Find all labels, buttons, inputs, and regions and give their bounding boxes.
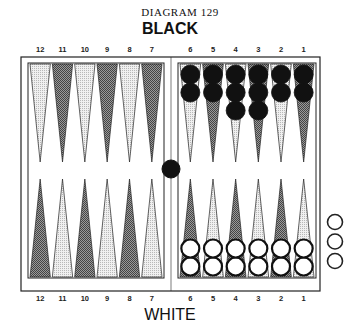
black-checker[interactable] bbox=[294, 83, 313, 102]
point-bottom-10[interactable] bbox=[75, 179, 95, 277]
top-point-number: 6 bbox=[188, 45, 192, 54]
top-point-number: 5 bbox=[211, 45, 215, 54]
white-checker[interactable] bbox=[272, 240, 290, 258]
point-bottom-7[interactable] bbox=[142, 179, 162, 277]
black-checker[interactable] bbox=[272, 83, 291, 102]
white-checker[interactable] bbox=[181, 240, 199, 258]
point-bottom-8[interactable] bbox=[119, 179, 139, 277]
black-checker[interactable] bbox=[226, 65, 245, 84]
bottom-point-number: 2 bbox=[279, 294, 283, 303]
borne-off-white-checker bbox=[328, 254, 343, 269]
white-checker[interactable] bbox=[227, 240, 245, 258]
black-checker[interactable] bbox=[204, 65, 223, 84]
bottom-point-number: 12 bbox=[36, 294, 44, 303]
top-point-number: 11 bbox=[59, 45, 67, 54]
bottom-point-number: 7 bbox=[150, 294, 154, 303]
bottom-point-number: 11 bbox=[59, 294, 67, 303]
point-top-8[interactable] bbox=[119, 64, 139, 162]
black-checker[interactable] bbox=[204, 83, 223, 102]
backgammon-board: 121110987654321121110987654321 bbox=[0, 0, 360, 332]
white-checker[interactable] bbox=[249, 258, 267, 276]
point-bottom-11[interactable] bbox=[52, 179, 72, 277]
black-checker[interactable] bbox=[249, 101, 268, 120]
bar-black-checker[interactable] bbox=[162, 160, 180, 178]
top-point-number: 4 bbox=[234, 45, 239, 54]
top-point-number: 1 bbox=[302, 45, 306, 54]
white-checker[interactable] bbox=[204, 258, 222, 276]
top-point-number: 8 bbox=[127, 45, 131, 54]
top-point-number: 12 bbox=[36, 45, 44, 54]
black-checker[interactable] bbox=[181, 83, 200, 102]
white-checker[interactable] bbox=[295, 258, 313, 276]
bottom-point-number: 1 bbox=[302, 294, 306, 303]
black-checker[interactable] bbox=[272, 65, 291, 84]
bottom-point-number: 8 bbox=[127, 294, 131, 303]
white-checker[interactable] bbox=[181, 258, 199, 276]
top-point-number: 10 bbox=[81, 45, 89, 54]
black-checker[interactable] bbox=[249, 65, 268, 84]
white-checker[interactable] bbox=[272, 258, 290, 276]
bottom-point-number: 4 bbox=[234, 294, 239, 303]
point-bottom-9[interactable] bbox=[97, 179, 117, 277]
black-checker[interactable] bbox=[249, 83, 268, 102]
point-top-12[interactable] bbox=[30, 64, 50, 162]
point-top-10[interactable] bbox=[75, 64, 95, 162]
borne-off-white-checker bbox=[328, 234, 343, 249]
bottom-point-number: 10 bbox=[81, 294, 89, 303]
black-checker[interactable] bbox=[226, 101, 245, 120]
point-top-11[interactable] bbox=[52, 64, 72, 162]
top-point-number: 3 bbox=[256, 45, 260, 54]
black-checker[interactable] bbox=[294, 65, 313, 84]
white-checker[interactable] bbox=[295, 240, 313, 258]
point-top-9[interactable] bbox=[97, 64, 117, 162]
top-point-number: 2 bbox=[279, 45, 283, 54]
bottom-point-number: 9 bbox=[105, 294, 109, 303]
point-top-7[interactable] bbox=[142, 64, 162, 162]
white-checker[interactable] bbox=[249, 240, 267, 258]
black-checker[interactable] bbox=[181, 65, 200, 84]
point-bottom-12[interactable] bbox=[30, 179, 50, 277]
bottom-point-number: 6 bbox=[188, 294, 192, 303]
bottom-point-number: 5 bbox=[211, 294, 215, 303]
bottom-point-number: 3 bbox=[256, 294, 260, 303]
left-table-frame bbox=[28, 63, 164, 278]
top-point-number: 9 bbox=[105, 45, 109, 54]
borne-off-white-checker bbox=[328, 215, 343, 230]
white-checker[interactable] bbox=[227, 258, 245, 276]
black-checker[interactable] bbox=[226, 83, 245, 102]
white-checker[interactable] bbox=[204, 240, 222, 258]
top-point-number: 7 bbox=[150, 45, 154, 54]
